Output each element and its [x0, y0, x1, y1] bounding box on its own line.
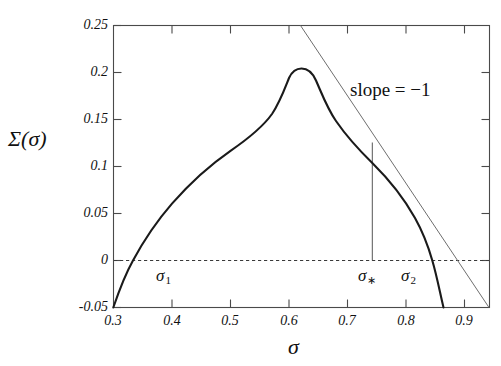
y-tick-label-0: 0.25	[56, 17, 108, 33]
x-axis-title: σ	[288, 334, 299, 360]
x-tick-label-4: 0.7	[327, 313, 367, 329]
sigma-1-subscript: 1	[165, 274, 171, 286]
y-tick-label-4: 0.05	[56, 205, 108, 221]
x-tick-label-0: 0.3	[93, 313, 133, 329]
y-tick-label-3: 0.1	[56, 158, 108, 174]
y-tick-label-1: 0.2	[56, 64, 108, 80]
sigma-star-subscript: ∗	[367, 274, 376, 286]
tangent-line	[301, 26, 490, 308]
x-tick-label-6: 0.9	[444, 313, 484, 329]
y-tick-label-2: 0.15	[56, 111, 108, 127]
x-tick-label-5: 0.8	[386, 313, 426, 329]
x-tick-label-2: 0.5	[210, 313, 250, 329]
sigma-2-glyph: σ	[401, 266, 409, 285]
sigma-2-subscript: 2	[410, 274, 416, 286]
sigma-star-label: σ∗	[358, 266, 375, 286]
chart-figure: 0.25 0.2 0.15 0.1 0.05 0 -0.05 0.3 0.4 0…	[0, 0, 501, 366]
sigma-1-label: σ1	[156, 266, 170, 286]
sigma-2-label: σ2	[401, 266, 415, 286]
x-tick-marks	[172, 26, 465, 308]
y-tick-label-5: 0	[56, 252, 108, 268]
sigma-star-glyph: σ	[358, 266, 366, 285]
slope-annotation: slope = −1	[350, 79, 431, 101]
x-tick-label-1: 0.4	[152, 313, 192, 329]
x-tick-label-3: 0.6	[269, 313, 309, 329]
y-axis-title: Σ(σ)	[8, 126, 47, 152]
sigma-1-glyph: σ	[156, 266, 164, 285]
